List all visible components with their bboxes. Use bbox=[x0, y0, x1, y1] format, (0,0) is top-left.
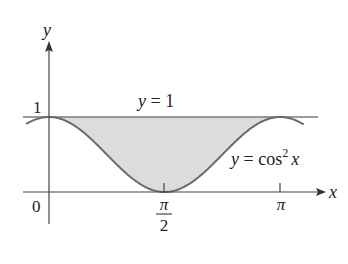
label-eq-cos: = cos bbox=[239, 149, 282, 169]
area-diagram: y x 0 1 π 2 π y = 1 y = cos2x bbox=[0, 0, 348, 264]
tick-label-pi-over-2-numerator: π bbox=[160, 195, 169, 214]
label-exponent: 2 bbox=[282, 146, 288, 160]
label-rest: = 1 bbox=[146, 91, 174, 111]
label-var-y2: y bbox=[229, 149, 239, 169]
label-y-equals-cos2x: y = cos2x bbox=[229, 146, 299, 169]
label-y-equals-1: y = 1 bbox=[136, 91, 174, 111]
label-var-x: x bbox=[290, 149, 299, 169]
label-var-y: y bbox=[136, 91, 146, 111]
y-axis-label: y bbox=[41, 20, 51, 40]
y-tick-1-label: 1 bbox=[33, 98, 42, 117]
tick-label-pi: π bbox=[277, 195, 286, 214]
x-axis-label: x bbox=[328, 182, 337, 202]
origin-label: 0 bbox=[32, 197, 41, 216]
tick-label-pi-over-2-denominator: 2 bbox=[160, 216, 169, 235]
